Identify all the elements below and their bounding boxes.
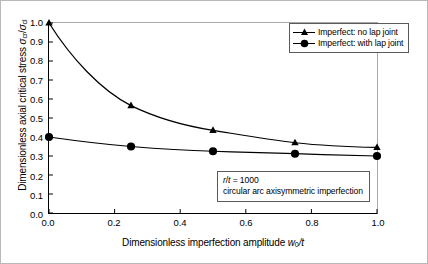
y-axis-title: Dimensionless axial critical stress σcr/… bbox=[17, 5, 29, 205]
chart-legend: Imperfect: no lap joint Imperfect: with … bbox=[289, 23, 409, 53]
x-axis-title-var: w bbox=[288, 237, 295, 248]
x-tick-label: 0.6 bbox=[231, 218, 261, 228]
x-axis-title-main: Dimensionless imperfection amplitude bbox=[122, 237, 288, 248]
legend-item-no-lap-joint: Imperfect: no lap joint bbox=[293, 27, 403, 38]
y-axis-sigma-cl: σ bbox=[17, 24, 28, 30]
x-tick-label: 0.2 bbox=[99, 218, 129, 228]
chart-figure: 1.0 0.9 0.8 0.7 0.6 0.5 0.4 0.3 0.2 0.1 … bbox=[0, 0, 428, 264]
x-axis-title-tail: /t bbox=[299, 237, 304, 248]
annotation-ratio-value: = 1000 bbox=[230, 175, 258, 185]
x-axis-title: Dimensionless imperfection amplitude w0/… bbox=[48, 237, 378, 249]
circle-marker-icon bbox=[293, 38, 315, 49]
annotation-line-description: circular arc axisymmetric imperfection bbox=[223, 186, 363, 197]
x-tick-label: 0.0 bbox=[33, 218, 63, 228]
annotation-line-ratio: r/t = 1000 bbox=[223, 175, 363, 186]
x-tick-label: 0.4 bbox=[165, 218, 195, 228]
y-axis-sigma-cr: σ bbox=[17, 39, 28, 45]
legend-label: Imperfect: with lap joint bbox=[315, 38, 403, 49]
legend-label: Imperfect: no lap joint bbox=[315, 27, 398, 38]
triangle-marker-icon bbox=[293, 27, 315, 38]
series-markers-with-lap-joint bbox=[45, 133, 381, 160]
y-axis-title-main: Dimensionless axial critical stress bbox=[17, 44, 28, 190]
legend-item-with-lap-joint: Imperfect: with lap joint bbox=[293, 38, 403, 49]
y-axis-sub-cl: cl bbox=[20, 19, 29, 24]
y-tick-marks bbox=[49, 23, 53, 213]
x-tick-marks bbox=[49, 209, 377, 213]
chart-annotation-box: r/t = 1000 circular arc axisymmetric imp… bbox=[217, 171, 370, 202]
x-tick-label: 0.8 bbox=[297, 218, 327, 228]
y-axis-slash: / bbox=[17, 30, 28, 33]
x-tick-label: 1.0 bbox=[363, 218, 393, 228]
y-axis-sub-cr: cr bbox=[20, 33, 29, 39]
